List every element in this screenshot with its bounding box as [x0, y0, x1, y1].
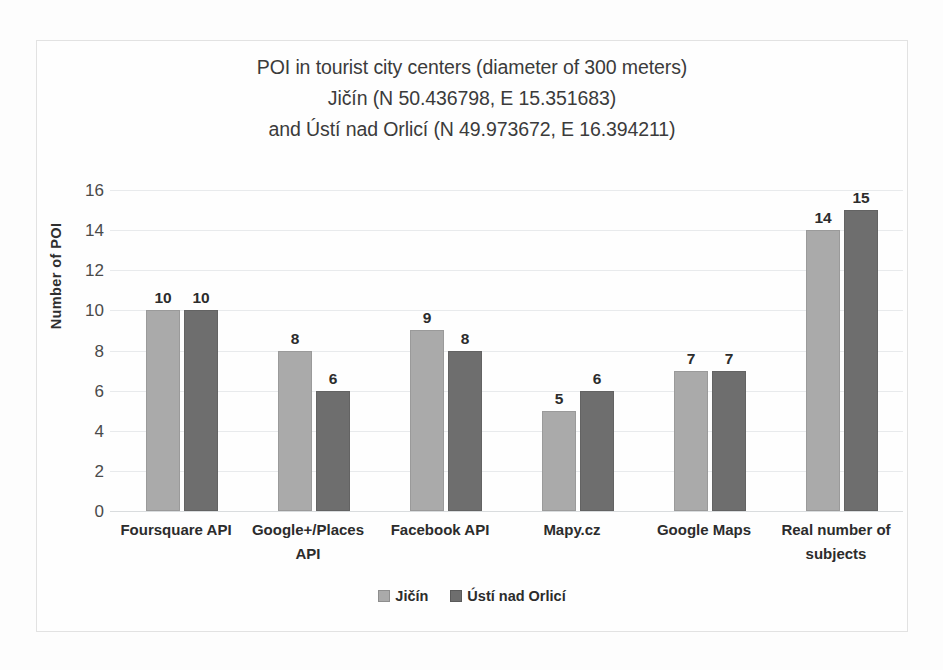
- legend-item[interactable]: Jičín: [378, 588, 428, 604]
- bar[interactable]: 10: [146, 310, 180, 511]
- bar-group: 98: [374, 190, 506, 511]
- bar-value-label: 10: [192, 289, 209, 307]
- x-axis-labels: Foursquare APIGoogle+/PlacesAPIFacebook …: [110, 518, 903, 584]
- y-tick-label-14: 14: [58, 222, 104, 239]
- bar[interactable]: 5: [542, 411, 576, 511]
- y-tick-label-4: 4: [58, 422, 104, 439]
- bar-group: 56: [506, 190, 638, 511]
- bar-value-label: 7: [687, 350, 696, 368]
- legend-label: Ústí nad Orlicí: [467, 588, 565, 604]
- bar[interactable]: 15: [844, 210, 878, 511]
- x-axis-label-line: Google Maps: [638, 518, 770, 542]
- legend-swatch-icon: [378, 590, 390, 602]
- x-axis-label-line: API: [242, 542, 374, 566]
- bar-value-label: 7: [725, 350, 734, 368]
- y-tick-label-12: 12: [58, 262, 104, 279]
- bar[interactable]: 6: [580, 391, 614, 511]
- chart-title-line-1: POI in tourist city centers (diameter of…: [36, 52, 908, 83]
- y-tick-label-0: 0: [58, 503, 104, 520]
- chart-page: POI in tourist city centers (diameter of…: [0, 0, 943, 670]
- x-axis-label: Google Maps: [638, 518, 770, 542]
- chart-title-line-3: and Ústí nad Orlicí (N 49.973672, E 16.3…: [36, 114, 908, 145]
- x-axis-label-line: Facebook API: [374, 518, 506, 542]
- chart-legend: JičínÚstí nad Orlicí: [36, 588, 908, 604]
- bar[interactable]: 7: [712, 371, 746, 511]
- bar-value-label: 14: [814, 209, 831, 227]
- x-axis-label-line: Real number of: [770, 518, 902, 542]
- legend-label: Jičín: [395, 588, 428, 604]
- legend-swatch-icon: [450, 590, 462, 602]
- y-tick-label-6: 6: [58, 382, 104, 399]
- x-axis-label: Google+/PlacesAPI: [242, 518, 374, 566]
- bar-group: 86: [242, 190, 374, 511]
- bar[interactable]: 14: [806, 230, 840, 511]
- bar[interactable]: 10: [184, 310, 218, 511]
- bar-value-label: 8: [461, 330, 470, 348]
- y-tick-label-8: 8: [58, 342, 104, 359]
- bar-value-label: 10: [154, 289, 171, 307]
- chart-title-line-2: Jičín (N 50.436798, E 15.351683): [36, 83, 908, 114]
- x-axis-label: Real number ofsubjects: [770, 518, 902, 566]
- y-tick-label-10: 10: [58, 302, 104, 319]
- bar[interactable]: 7: [674, 371, 708, 511]
- bar-value-label: 6: [593, 370, 602, 388]
- bar-value-label: 6: [329, 370, 338, 388]
- bar-value-label: 9: [423, 309, 432, 327]
- x-axis-label-line: subjects: [770, 542, 902, 566]
- bar[interactable]: 6: [316, 391, 350, 511]
- y-axis-title: Number of POI: [48, 186, 64, 366]
- bar-group: 77: [638, 190, 770, 511]
- x-axis-label-line: Foursquare API: [110, 518, 242, 542]
- bar[interactable]: 9: [410, 330, 444, 511]
- bar-value-label: 5: [555, 390, 564, 408]
- x-axis-label: Mapy.cz: [506, 518, 638, 542]
- y-tick-label-16: 16: [58, 182, 104, 199]
- x-axis-label-line: Mapy.cz: [506, 518, 638, 542]
- bar-group: 1415: [770, 190, 902, 511]
- y-tick-label-2: 2: [58, 462, 104, 479]
- chart-title: POI in tourist city centers (diameter of…: [36, 52, 908, 145]
- bar-group: 1010: [110, 190, 242, 511]
- bar[interactable]: 8: [448, 351, 482, 512]
- bar-value-label: 8: [291, 330, 300, 348]
- legend-item[interactable]: Ústí nad Orlicí: [450, 588, 565, 604]
- x-axis-label: Foursquare API: [110, 518, 242, 542]
- bar[interactable]: 8: [278, 351, 312, 512]
- bar-value-label: 15: [852, 189, 869, 207]
- x-axis-label: Facebook API: [374, 518, 506, 542]
- bar-groups: 1010869856771415: [110, 190, 903, 511]
- x-axis-label-line: Google+/Places: [242, 518, 374, 542]
- x-axis-line: [110, 511, 903, 512]
